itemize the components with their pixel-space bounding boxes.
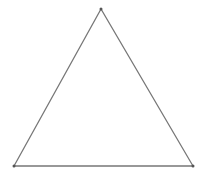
triangle-shape [14, 9, 193, 166]
triangle-diagram [0, 0, 206, 173]
vertex-bottom-left [13, 165, 16, 168]
vertex-bottom-right [192, 165, 195, 168]
vertex-top [100, 8, 103, 11]
